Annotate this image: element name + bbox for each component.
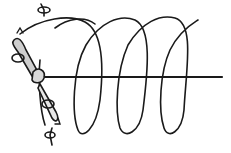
helix-diagram — [0, 0, 231, 153]
helix-illustration — [0, 0, 231, 153]
helix-coil — [20, 17, 198, 134]
spinning-body — [13, 38, 58, 120]
